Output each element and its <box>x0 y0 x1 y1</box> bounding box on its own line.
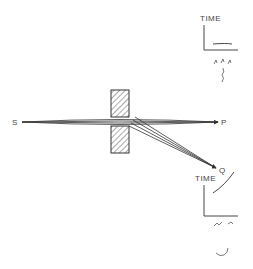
barrier-upper-block <box>111 90 129 117</box>
label-target-p: P <box>221 118 227 127</box>
rays-to-p <box>22 120 218 125</box>
time-plot-top <box>204 25 238 50</box>
label-source-s: S <box>12 118 18 127</box>
squiggle-bottom <box>214 222 233 256</box>
barrier-lower-block <box>111 126 129 153</box>
label-time-bottom: TIME <box>195 174 216 183</box>
time-curve-top <box>213 44 232 45</box>
label-time-top: TIME <box>200 14 221 23</box>
squiggle-top <box>214 59 231 82</box>
label-target-q: Q <box>219 166 226 175</box>
barrier <box>111 90 129 153</box>
time-curve-bottom <box>213 172 234 193</box>
diagram-canvas <box>0 0 253 269</box>
